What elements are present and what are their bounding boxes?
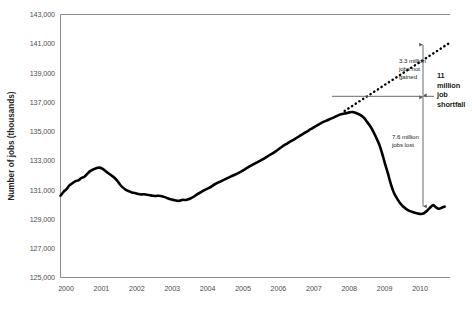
x-tick-label: 2002 — [129, 284, 145, 293]
y-tick-label: 135,000 — [30, 127, 55, 136]
y-tick-label: 133,000 — [30, 156, 55, 165]
y-tick-label: 137,000 — [30, 98, 55, 107]
x-tick-label: 2001 — [94, 284, 110, 293]
annotation-job-shortfall: 11 million job shortfall — [436, 71, 465, 109]
x-tick-label: 2007 — [306, 284, 322, 293]
employment-chart: 143,000 141,000 139,000 137,000 135,000 … — [0, 0, 472, 313]
annotation-line: shortfall — [437, 100, 465, 109]
trend-projection-line — [345, 44, 449, 111]
annotation-line: 11 — [437, 71, 445, 80]
y-tick-label: 129,000 — [30, 215, 55, 224]
chart-canvas: 143,000 141,000 139,000 137,000 135,000 … — [0, 0, 472, 313]
annotation-jobs-lost: 7.6 million jobs lost — [391, 133, 419, 148]
x-tick-label: 2009 — [377, 284, 393, 293]
x-tick-label: 2003 — [164, 284, 180, 293]
annotation-line: 3.3 million — [399, 57, 426, 64]
annotation-line: 7.6 million — [392, 133, 419, 140]
x-tick-label: 2008 — [341, 284, 357, 293]
annotation-line: jobs not — [398, 65, 420, 72]
x-axis-ticks: 2000 2001 2002 2003 2004 2005 2006 2007 … — [58, 284, 428, 293]
employment-series-line — [61, 112, 445, 214]
y-tick-label: 125,000 — [30, 273, 55, 282]
y-tick-label: 139,000 — [30, 69, 55, 78]
x-tick-label: 2004 — [200, 284, 216, 293]
y-axis-title: Number of jobs (thousands) — [7, 91, 16, 200]
annotation-line: jobs lost — [391, 141, 414, 148]
annotation-jobs-not-gained: 3.3 million jobs not gained — [398, 57, 426, 80]
annotation-line: million — [437, 81, 461, 90]
y-axis-ticks: 143,000 141,000 139,000 137,000 135,000 … — [30, 10, 55, 282]
annotation-line: gained — [399, 73, 418, 80]
x-tick-label: 2010 — [412, 284, 428, 293]
x-tick-label: 2000 — [58, 284, 74, 293]
y-tick-label: 127,000 — [30, 244, 55, 253]
y-tick-label: 131,000 — [30, 186, 55, 195]
x-tick-label: 2005 — [235, 284, 251, 293]
y-tick-label: 141,000 — [30, 39, 55, 48]
x-tick-label: 2006 — [271, 284, 287, 293]
y-tick-label: 143,000 — [30, 10, 55, 19]
annotation-line: job — [436, 90, 448, 99]
